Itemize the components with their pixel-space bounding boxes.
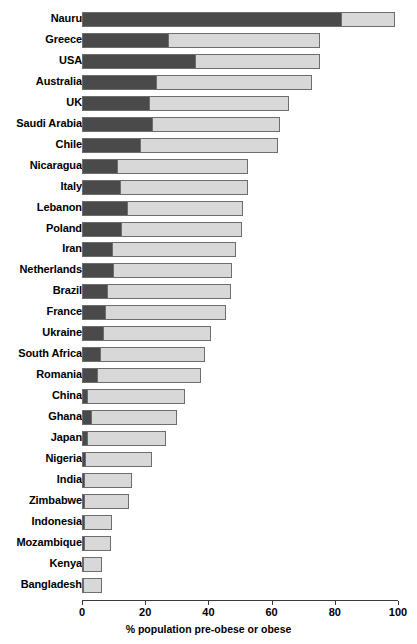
stacked-bar[interactable] [82,326,211,341]
category-label-france: France [0,305,82,317]
bar-segment-pre-obese [118,160,247,173]
bar-segment-obese [83,369,98,382]
bar-segment-pre-obese [113,243,235,256]
chart-row: Australia [0,75,417,95]
stacked-bar[interactable] [82,473,132,488]
stacked-bar[interactable] [82,242,236,257]
stacked-bar[interactable] [82,347,205,362]
category-label-uk: UK [0,96,82,108]
chart-row: Italy [0,180,417,200]
chart-row: Poland [0,222,417,242]
chart-row: USA [0,54,417,74]
x-axis-line [82,600,398,601]
category-label-china: China [0,389,82,401]
bar-segment-pre-obese [108,285,231,298]
bar-segment-obese [83,181,121,194]
bar-segment-pre-obese [86,453,151,466]
chart-row: Mozambique [0,536,417,556]
chart-row: Nauru [0,12,417,32]
stacked-bar[interactable] [82,452,152,467]
bar-segment-pre-obese [92,411,176,424]
category-label-chile: Chile [0,138,82,150]
bar-segment-pre-obese [141,139,277,152]
chart-row: China [0,389,417,409]
stacked-bar[interactable] [82,75,312,90]
bar-segment-pre-obese [98,369,200,382]
chart-row: Nicaragua [0,159,417,179]
category-label-nigeria: Nigeria [0,452,82,464]
chart-row: Netherlands [0,263,417,283]
bar-segment-obese [83,327,104,340]
chart-row: UK [0,96,417,116]
stacked-bar[interactable] [82,284,231,299]
x-axis-tick-label: 60 [252,606,292,618]
category-label-usa: USA [0,54,82,66]
bar-segment-pre-obese [88,432,165,445]
bar-segment-pre-obese [153,118,278,131]
x-axis-tick [145,601,146,605]
bar-segment-pre-obese [114,264,232,277]
stacked-bar[interactable] [82,557,102,572]
stacked-bar[interactable] [82,180,248,195]
category-label-nauru: Nauru [0,12,82,24]
x-axis-tick [272,601,273,605]
stacked-bar[interactable] [82,201,243,216]
category-label-india: India [0,473,82,485]
category-label-italy: Italy [0,180,82,192]
bar-segment-obese [83,223,122,236]
bar-segment-obese [83,118,153,131]
chart-row: Chile [0,138,417,158]
bar-segment-pre-obese [169,34,318,47]
bar-segment-pre-obese [128,202,242,215]
stacked-bar[interactable] [82,159,248,174]
stacked-bar[interactable] [82,305,226,320]
bar-segment-pre-obese [106,306,226,319]
chart-row: Nigeria [0,452,417,472]
chart-row: Japan [0,431,417,451]
stacked-bar[interactable] [82,515,112,530]
x-axis-tick-label: 0 [62,606,102,618]
chart-row: Brazil [0,284,417,304]
stacked-bar[interactable] [82,138,278,153]
chart-row: Greece [0,33,417,53]
bar-segment-pre-obese [104,327,210,340]
stacked-bar[interactable] [82,33,320,48]
stacked-bar[interactable] [82,12,395,27]
bar-segment-pre-obese [85,516,111,529]
chart-row: Saudi Arabia [0,117,417,137]
category-label-kenya: Kenya [0,557,82,569]
bar-segment-obese [83,13,342,26]
chart-row: Indonesia [0,515,417,535]
stacked-bar[interactable] [82,222,242,237]
bar-segment-pre-obese [122,223,241,236]
chart-row: India [0,473,417,493]
bar-segment-pre-obese [85,537,110,550]
chart-row: South Africa [0,347,417,367]
stacked-bar[interactable] [82,494,129,509]
bar-segment-obese [83,34,169,47]
category-label-iran: Iran [0,242,82,254]
bar-segment-pre-obese [101,348,205,361]
chart-row: Bangladesh [0,578,417,598]
stacked-bar[interactable] [82,368,201,383]
bar-segment-pre-obese [121,181,247,194]
category-label-zimbabwe: Zimbabwe [0,494,82,506]
bar-segment-obese [83,348,101,361]
stacked-bar[interactable] [82,431,166,446]
stacked-bar[interactable] [82,578,102,593]
bar-segment-obese [83,411,92,424]
stacked-bar[interactable] [82,389,185,404]
category-label-japan: Japan [0,431,82,443]
stacked-bar[interactable] [82,263,232,278]
x-axis-tick [82,601,83,605]
bar-segment-pre-obese [150,97,288,110]
stacked-bar[interactable] [82,96,289,111]
chart-row: Ukraine [0,326,417,346]
category-label-ukraine: Ukraine [0,326,82,338]
stacked-bar[interactable] [82,410,177,425]
category-label-ghana: Ghana [0,410,82,422]
stacked-bar[interactable] [82,54,320,69]
stacked-bar[interactable] [82,536,111,551]
stacked-bar[interactable] [82,117,280,132]
x-axis-tick [335,601,336,605]
